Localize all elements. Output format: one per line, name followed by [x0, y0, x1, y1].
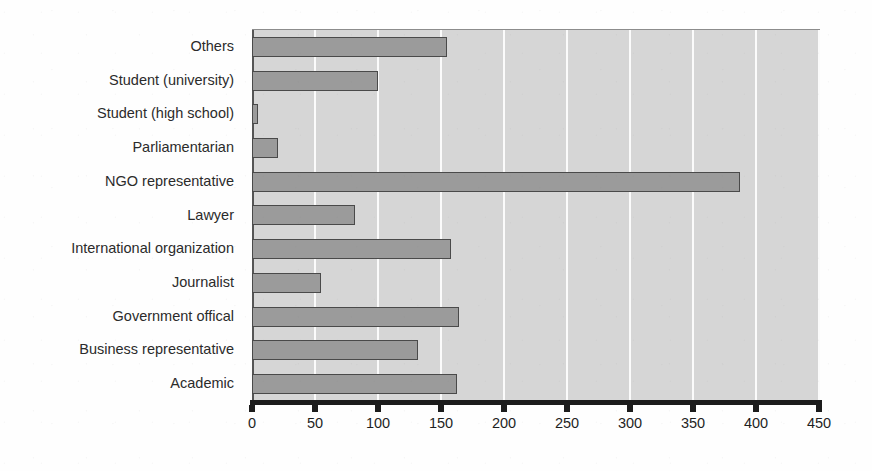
tick-label-150: 150 [429, 416, 453, 431]
tick-label-200: 200 [492, 416, 516, 431]
bar [252, 71, 378, 91]
bar [252, 172, 740, 192]
tick-mark-150 [438, 405, 444, 412]
bar-row [252, 300, 819, 334]
tick-label-100: 100 [366, 416, 390, 431]
tick-label-250: 250 [555, 416, 579, 431]
tick-mark-100 [375, 405, 381, 412]
tick-mark-400 [753, 405, 759, 412]
category-label: Parliamentarian [132, 140, 234, 155]
bar [252, 374, 457, 394]
category-label: Government offical [113, 309, 234, 324]
x-axis-ticks: 050100150200250300350400450 [252, 405, 820, 445]
tick-mark-300 [627, 405, 633, 412]
bar-row [252, 199, 819, 233]
tick-label-400: 400 [744, 416, 768, 431]
tick-mark-50 [312, 405, 318, 412]
bar-row [252, 232, 819, 266]
tick-mark-250 [564, 405, 570, 412]
bar-row [252, 97, 819, 131]
category-label: Others [190, 39, 234, 54]
bar [252, 104, 258, 124]
category-label: Journalist [172, 275, 234, 290]
bar [252, 273, 321, 293]
category-label: Student (high school) [97, 106, 234, 121]
tick-mark-0 [249, 405, 255, 412]
category-label: NGO representative [105, 174, 234, 189]
plot-area [252, 29, 820, 401]
bar [252, 340, 418, 360]
tick-label-300: 300 [618, 416, 642, 431]
tick-label-0: 0 [248, 416, 256, 431]
bar-row [252, 367, 819, 401]
tick-label-50: 50 [307, 416, 323, 431]
tick-label-450: 450 [807, 416, 831, 431]
bar [252, 205, 355, 225]
bar [252, 307, 459, 327]
tick-mark-200 [501, 405, 507, 412]
chart-screenshot: OthersStudent (university)Student (high … [0, 0, 872, 471]
bar [252, 239, 451, 259]
bar-row [252, 64, 819, 98]
bar [252, 138, 278, 158]
bar-row [252, 165, 819, 199]
bar-series [252, 30, 819, 401]
category-label: Business representative [79, 342, 234, 357]
category-axis-labels: OthersStudent (university)Student (high … [0, 29, 244, 401]
category-label: Academic [170, 376, 234, 391]
category-label: Student (university) [109, 73, 234, 88]
category-label: International organization [71, 241, 234, 256]
category-label: Lawyer [187, 208, 234, 223]
bar-row [252, 266, 819, 300]
bar-row [252, 131, 819, 165]
tick-label-350: 350 [681, 416, 705, 431]
bar-row [252, 334, 819, 368]
bar-row [252, 30, 819, 64]
tick-mark-450 [816, 405, 822, 412]
bar [252, 37, 447, 57]
tick-mark-350 [690, 405, 696, 412]
